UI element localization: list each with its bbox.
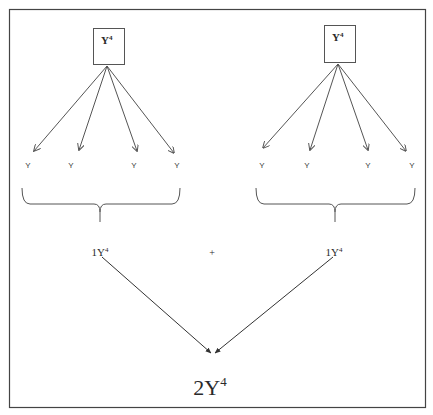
right-brace bbox=[256, 188, 415, 222]
right-arrow-4 bbox=[338, 64, 406, 151]
left-arrow-3 bbox=[107, 66, 137, 151]
right-arrows bbox=[263, 64, 406, 151]
left-leaf-labels: Y Y Y Y bbox=[25, 161, 180, 170]
right-arrow-3 bbox=[338, 64, 368, 150]
left-result: 1Y4 bbox=[92, 246, 109, 258]
right-to-final-arrow bbox=[215, 257, 333, 353]
left-brace bbox=[22, 188, 180, 222]
plus-operator: + bbox=[209, 247, 215, 258]
left-leaf-1: Y bbox=[25, 161, 31, 170]
right-leaf-3: Y bbox=[365, 161, 371, 170]
right-group: Y4 Y Y Y Y 1Y4 bbox=[256, 26, 415, 259]
left-leaf-4: Y bbox=[174, 161, 180, 170]
left-leaf-2: Y bbox=[68, 161, 74, 170]
right-leaf-2: Y bbox=[304, 161, 310, 170]
final-result: 2Y4 bbox=[193, 374, 227, 400]
converging-arrows bbox=[102, 257, 333, 353]
diagram-canvas: Y4 Y Y Y Y 1Y4 + Y4 bbox=[0, 0, 433, 415]
left-arrow-4 bbox=[107, 66, 174, 153]
left-arrows bbox=[34, 66, 174, 153]
right-leaf-labels: Y Y Y Y bbox=[259, 161, 415, 170]
left-leaf-3: Y bbox=[131, 161, 137, 170]
right-arrow-1 bbox=[263, 64, 338, 148]
left-arrow-2 bbox=[79, 66, 107, 150]
right-arrow-2 bbox=[310, 64, 338, 150]
outer-frame bbox=[10, 10, 426, 408]
right-leaf-1: Y bbox=[259, 161, 265, 170]
left-arrow-1 bbox=[34, 66, 107, 151]
right-leaf-4: Y bbox=[409, 161, 415, 170]
left-to-final-arrow bbox=[102, 257, 211, 353]
right-result: 1Y4 bbox=[326, 246, 343, 258]
left-group: Y4 Y Y Y Y 1Y4 bbox=[22, 29, 180, 259]
